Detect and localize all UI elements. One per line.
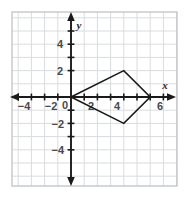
coordinate-plane-svg: −4 −2 2 4 6 0 4 2 −2 −4 x y [0, 0, 186, 202]
y-tick-label-neg4: −4 [51, 144, 64, 156]
y-tick-label-2: 2 [57, 65, 63, 77]
x-axis-label: x [161, 79, 168, 91]
y-axis-label: y [75, 19, 82, 31]
y-tick-label-4: 4 [57, 38, 64, 50]
x-tick-label-4: 4 [114, 100, 121, 112]
y-tick-label-neg2: −2 [51, 118, 64, 130]
x-tick-label-neg4: −4 [18, 100, 31, 112]
x-tick-label-neg2: −2 [45, 100, 58, 112]
grid-background [12, 12, 177, 186]
origin-label: 0 [62, 99, 68, 111]
x-tick-label-6: 6 [157, 100, 163, 112]
coordinate-plane-figure: −4 −2 2 4 6 0 4 2 −2 −4 x y [0, 0, 186, 202]
